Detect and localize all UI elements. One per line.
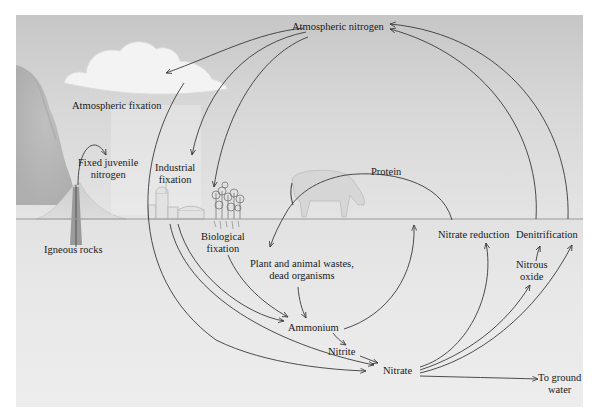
label-biological-fixation: Biological fixation [201,231,245,255]
volcano-smoke-icon [16,65,76,205]
label-nitrate-reduction: Nitrate reduction [438,229,509,241]
label-industrial-fixation: Industrial fixation [155,162,195,186]
label-ammonium: Ammonium [288,322,339,334]
label-to-ground-water: To ground water [538,372,581,396]
label-atmospheric-fixation: Atmospheric fixation [72,100,162,112]
label-denitrification: Denitrification [516,229,578,241]
label-nitrite: Nitrite [328,346,355,358]
label-nitrous-oxide: Nitrous oxide [516,259,548,283]
label-nitrate: Nitrate [383,365,412,377]
cloud-icon [64,42,228,95]
label-fixed-juvenile-nitrogen: Fixed juvenile nitrogen [78,157,138,181]
diagram-artwork [16,15,583,407]
plant-icon [212,182,244,229]
label-igneous-rocks: Igneous rocks [44,244,103,256]
nitrogen-cycle-diagram: Atmospheric nitrogen Atmospheric fixatio… [16,15,583,407]
label-plant-animal-wastes: Plant and animal wastes, dead organisms [250,258,354,282]
label-atmospheric-nitrogen: Atmospheric nitrogen [292,21,384,33]
label-protein: Protein [371,166,401,178]
